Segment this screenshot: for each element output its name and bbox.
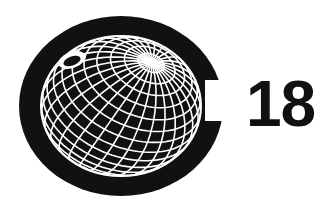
globe-icon [41, 36, 201, 176]
number-label: 18 [246, 68, 315, 140]
